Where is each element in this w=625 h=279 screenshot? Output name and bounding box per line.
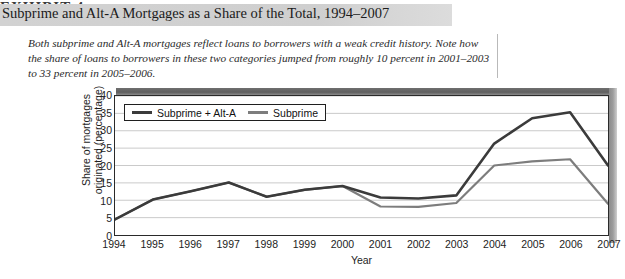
- y-axis-tick-label: 25: [86, 143, 112, 153]
- x-axis-tick-label: 1994: [94, 238, 134, 250]
- y-axis-tick-label: 5: [86, 213, 112, 223]
- y-axis-tick-label: 30: [86, 125, 112, 135]
- x-axis-tick-label: 2003: [437, 238, 477, 250]
- chart-3d-top-wall: [116, 88, 616, 95]
- x-axis-tick-label: 1997: [208, 238, 248, 250]
- y-axis-tick-label: 35: [86, 108, 112, 118]
- y-axis-tick-label: 15: [86, 178, 112, 188]
- chart-3d-right-wall: [609, 88, 617, 243]
- x-axis-tick-label: 1999: [284, 238, 324, 250]
- x-axis-tick-label: 2007: [589, 238, 625, 250]
- x-axis-tick-label: 2002: [399, 238, 439, 250]
- y-axis-tick-label: 20: [86, 161, 112, 171]
- caption-rule: [497, 34, 498, 78]
- chart-legend: Subprime + Alt-ASubprime: [124, 104, 326, 121]
- x-axis-tick-label: 2001: [361, 238, 401, 250]
- x-axis-tick-label: 2006: [551, 238, 591, 250]
- y-axis-tick-label: 40: [86, 90, 112, 100]
- chart-figure: Share of mortgages originated (percentag…: [66, 88, 614, 258]
- x-axis-tick-label: 1996: [170, 238, 210, 250]
- legend-label: Subprime: [273, 107, 318, 119]
- legend-label: Subprime + Alt-A: [157, 107, 236, 119]
- x-axis-tick-label: 2005: [513, 238, 553, 250]
- chart-caption: Both subprime and Alt-A mortgages reflec…: [28, 36, 493, 81]
- page-title: Subprime and Alt-A Mortgages as a Share …: [2, 5, 452, 22]
- legend-item: Subprime: [248, 107, 318, 119]
- legend-item: Subprime + Alt-A: [132, 107, 236, 119]
- legend-color-swatch: [132, 111, 152, 114]
- x-axis-tick-label: 1995: [132, 238, 172, 250]
- y-axis-tick-label: 10: [86, 196, 112, 206]
- legend-color-swatch: [248, 111, 268, 114]
- x-axis-tick-label: 2004: [475, 238, 515, 250]
- x-axis-ticks: 1994199519961997199819992000200120022003…: [114, 238, 611, 252]
- x-axis-tick-label: 1998: [246, 238, 286, 250]
- y-axis-ticks: 0510152025303540: [80, 88, 112, 243]
- x-axis-title: Year: [114, 254, 609, 266]
- x-axis-tick-label: 2000: [322, 238, 362, 250]
